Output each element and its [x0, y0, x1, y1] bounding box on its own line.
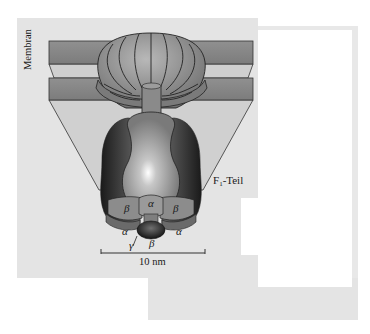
scale-bar-label: 10 nm — [139, 257, 166, 268]
membrane-label: Membran — [22, 29, 33, 70]
scale-bar — [101, 249, 205, 254]
subunit-label-beta-left: β — [124, 203, 129, 214]
f1-head — [101, 112, 202, 246]
f1-part-label: F1-Teil — [213, 175, 243, 188]
atp-synthase-diagram — [0, 0, 370, 334]
subunit-label-beta-lower: β — [149, 238, 154, 249]
f1-part-suffix: -Teil — [223, 174, 244, 186]
subunit-label-alpha-left-lower: α — [122, 226, 128, 237]
subunit-label-alpha-center: α — [148, 198, 154, 209]
subunit-label-beta-right: β — [173, 203, 178, 214]
subunit-label-gamma: γ — [129, 240, 133, 251]
subunit-label-alpha-right-lower: α — [176, 226, 182, 237]
